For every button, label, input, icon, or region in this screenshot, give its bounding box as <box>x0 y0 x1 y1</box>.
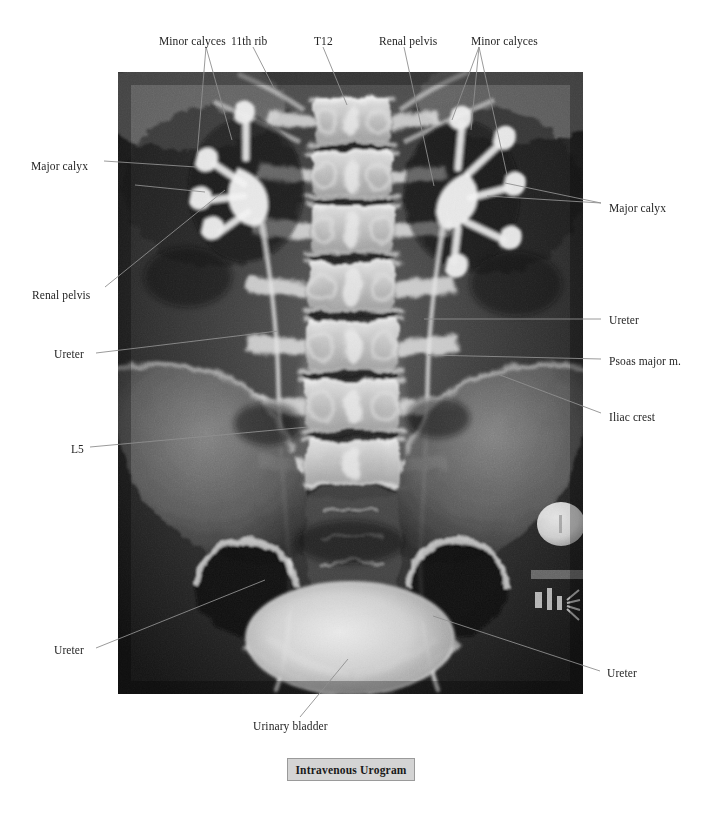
figure-root: Minor calyces11th ribT12Renal pelvisMino… <box>0 0 713 823</box>
annotation-label-renal-pelvis-right: Renal pelvis <box>379 36 437 48</box>
annotation-label-minor-calyces-right: Minor calyces <box>471 36 538 48</box>
annotation-label-urinary-bladder: Urinary bladder <box>253 721 328 733</box>
annotation-label-psoas-major: Psoas major m. <box>609 356 681 368</box>
annotation-label-t12: T12 <box>314 36 333 48</box>
annotation-label-major-calyx-right: Major calyx <box>609 203 666 215</box>
annotation-label-ureter-upper-left: Ureter <box>54 349 84 361</box>
annotation-label-iliac-crest: Iliac crest <box>609 412 655 424</box>
figure-caption-box: Intravenous Urogram <box>287 758 415 781</box>
figure-caption-text: Intravenous Urogram <box>295 764 406 776</box>
annotation-label-eleventh-rib: 11th rib <box>231 36 267 48</box>
annotation-label-renal-pelvis-left: Renal pelvis <box>32 290 90 302</box>
urogram-xray <box>118 72 583 694</box>
annotation-label-ureter-lower-left: Ureter <box>54 645 84 657</box>
radiograph-image <box>118 72 583 694</box>
annotation-label-major-calyx-left: Major calyx <box>31 161 88 173</box>
annotation-label-l5: L5 <box>71 444 84 456</box>
annotation-label-ureter-lower-right: Ureter <box>607 668 637 680</box>
annotation-label-ureter-upper-right: Ureter <box>609 315 639 327</box>
annotation-label-minor-calyces-left: Minor calyces <box>159 36 226 48</box>
